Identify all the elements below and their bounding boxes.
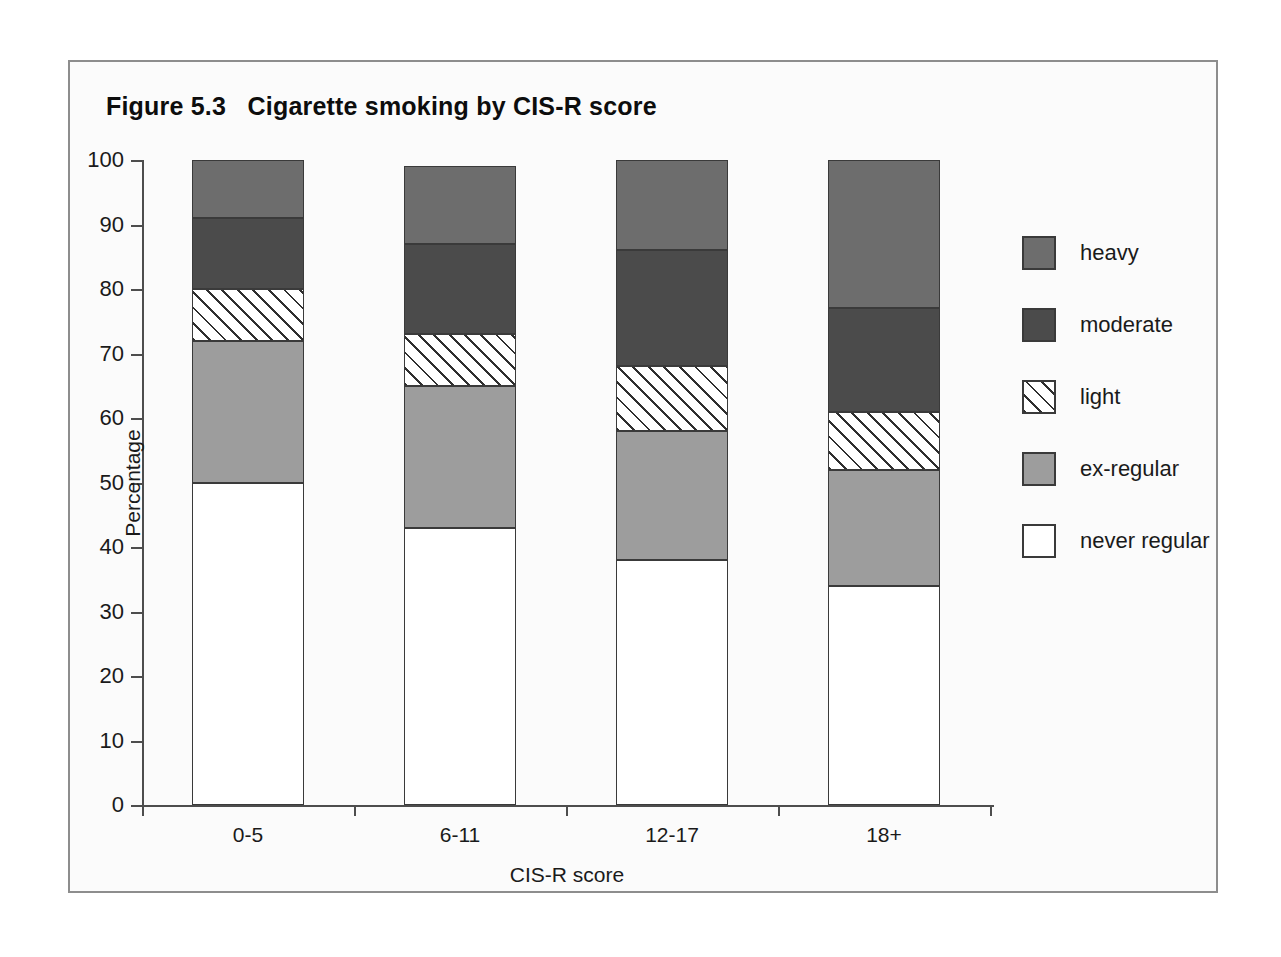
x-tick-0 xyxy=(142,805,144,816)
x-tick-3 xyxy=(778,805,780,816)
x-tick-label-18: 18+ xyxy=(866,823,902,847)
legend-swatch-moderate-icon xyxy=(1022,308,1056,342)
y-tick-label-90: 90 xyxy=(100,212,124,238)
y-tick-60: 60 xyxy=(131,418,142,420)
legend: heavy moderate light ex-regular never re… xyxy=(1022,230,1210,590)
bar-segment-moderate[interactable] xyxy=(828,308,940,411)
y-tick-label-60: 60 xyxy=(100,405,124,431)
bar-segment-ex-regular[interactable] xyxy=(828,470,940,586)
x-tick-4 xyxy=(990,805,992,816)
y-tick-label-20: 20 xyxy=(100,663,124,689)
bar-segment-never-regular[interactable] xyxy=(404,528,516,805)
legend-label-light: light xyxy=(1080,384,1120,410)
y-tick-0: 0 xyxy=(131,805,142,807)
bar-segment-heavy[interactable] xyxy=(192,160,304,218)
y-axis-title: Percentage xyxy=(121,429,145,536)
y-tick-label-80: 80 xyxy=(100,276,124,302)
bar-segment-heavy[interactable] xyxy=(404,166,516,243)
y-tick-100: 100 xyxy=(131,160,142,162)
legend-label-never-regular: never regular xyxy=(1080,528,1210,554)
legend-item-moderate[interactable]: moderate xyxy=(1022,302,1210,348)
y-tick-30: 30 xyxy=(131,612,142,614)
legend-label-ex-regular: ex-regular xyxy=(1080,456,1179,482)
y-tick-80: 80 xyxy=(131,289,142,291)
legend-swatch-heavy-icon xyxy=(1022,236,1056,270)
bar-segment-moderate[interactable] xyxy=(404,244,516,334)
x-tick-label-12-17: 12-17 xyxy=(645,823,699,847)
bar-segment-light[interactable] xyxy=(192,289,304,341)
bar-segment-light[interactable] xyxy=(404,334,516,386)
bar-segment-ex-regular[interactable] xyxy=(616,431,728,560)
y-tick-label-70: 70 xyxy=(100,341,124,367)
bar-segment-moderate[interactable] xyxy=(616,250,728,366)
x-axis-title: CIS-R score xyxy=(142,863,992,887)
y-tick-40: 40 xyxy=(131,547,142,549)
bar-segment-heavy[interactable] xyxy=(828,160,940,308)
legend-item-light[interactable]: light xyxy=(1022,374,1210,420)
x-tick-label-6-11: 6-11 xyxy=(440,823,480,847)
figure-frame: Figure 5.3 Cigarette smoking by CIS-R sc… xyxy=(68,60,1218,893)
bar-segment-light[interactable] xyxy=(828,412,940,470)
y-tick-label-100: 100 xyxy=(87,147,124,173)
legend-swatch-ex-regular-icon xyxy=(1022,452,1056,486)
bar-segment-light[interactable] xyxy=(616,366,728,431)
legend-swatch-never-regular-icon xyxy=(1022,524,1056,558)
bar-segment-ex-regular[interactable] xyxy=(404,386,516,528)
x-tick-label-0-5: 0-5 xyxy=(233,823,263,847)
x-axis-line xyxy=(142,805,994,807)
y-tick-90: 90 xyxy=(131,225,142,227)
plot-area: 100 90 80 70 60 50 40 30 20 10 0 xyxy=(142,160,992,805)
y-tick-70: 70 xyxy=(131,354,142,356)
bar-segment-heavy[interactable] xyxy=(616,160,728,250)
legend-item-never-regular[interactable]: never regular xyxy=(1022,518,1210,564)
legend-label-heavy: heavy xyxy=(1080,240,1139,266)
y-tick-label-40: 40 xyxy=(100,534,124,560)
legend-item-heavy[interactable]: heavy xyxy=(1022,230,1210,276)
y-tick-label-10: 10 xyxy=(100,728,124,754)
legend-label-moderate: moderate xyxy=(1080,312,1173,338)
bar-segment-never-regular[interactable] xyxy=(828,586,940,805)
x-tick-2 xyxy=(566,805,568,816)
y-tick-20: 20 xyxy=(131,676,142,678)
figure-title: Figure 5.3 Cigarette smoking by CIS-R sc… xyxy=(106,92,657,121)
y-tick-label-30: 30 xyxy=(100,599,124,625)
bar-segment-never-regular[interactable] xyxy=(616,560,728,805)
y-tick-10: 10 xyxy=(131,741,142,743)
legend-swatch-light-icon xyxy=(1022,380,1056,414)
bar-segment-never-regular[interactable] xyxy=(192,483,304,806)
x-tick-1 xyxy=(354,805,356,816)
bar-segment-ex-regular[interactable] xyxy=(192,341,304,483)
y-tick-label-0: 0 xyxy=(112,792,124,818)
legend-item-ex-regular[interactable]: ex-regular xyxy=(1022,446,1210,492)
bar-segment-moderate[interactable] xyxy=(192,218,304,289)
